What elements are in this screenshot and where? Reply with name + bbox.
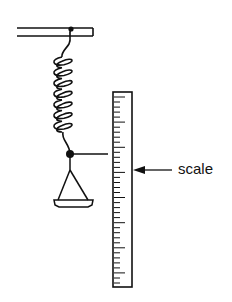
- support-bar: [17, 28, 93, 36]
- ruler: [113, 92, 132, 287]
- spring: [54, 57, 72, 132]
- scale-arrow: [133, 166, 172, 174]
- hook: [62, 26, 74, 57]
- scale-label: scale: [178, 160, 213, 177]
- spring-balance-diagram: [0, 0, 232, 302]
- pan: [54, 156, 93, 207]
